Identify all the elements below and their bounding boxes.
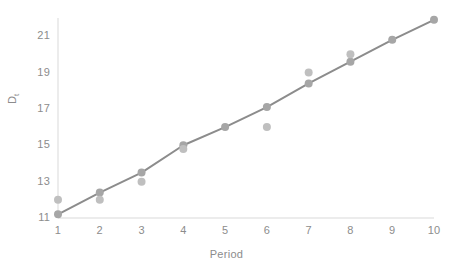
trend-marker bbox=[263, 103, 271, 111]
y-tick-label: 11 bbox=[24, 211, 50, 223]
x-tick-label: 9 bbox=[380, 224, 404, 236]
trend-marker bbox=[346, 58, 354, 66]
y-axis-title-subscript: t bbox=[12, 94, 21, 96]
trend-marker bbox=[388, 36, 396, 44]
y-tick-label: 21 bbox=[24, 29, 50, 41]
x-axis-title: Period bbox=[0, 248, 453, 260]
data-point bbox=[305, 69, 313, 77]
chart-container: 111315171921 12345678910 Period Dt bbox=[0, 0, 453, 276]
trend-line bbox=[58, 20, 434, 215]
x-tick-label: 6 bbox=[255, 224, 279, 236]
trend-marker bbox=[138, 169, 146, 177]
data-point bbox=[138, 178, 146, 186]
trend-marker bbox=[54, 210, 62, 218]
trend-marker bbox=[96, 189, 104, 197]
data-point bbox=[346, 50, 354, 58]
x-tick-label: 10 bbox=[422, 224, 446, 236]
trend-marker bbox=[430, 16, 438, 24]
y-tick-label: 17 bbox=[24, 102, 50, 114]
x-tick-label: 1 bbox=[46, 224, 70, 236]
trend-marker bbox=[221, 123, 229, 131]
x-tick-label: 4 bbox=[171, 224, 195, 236]
trend-line-path bbox=[58, 20, 434, 215]
y-tick-label: 15 bbox=[24, 138, 50, 150]
y-tick-label: 19 bbox=[24, 66, 50, 78]
x-tick-label: 7 bbox=[297, 224, 321, 236]
y-axis-title: Dt bbox=[6, 94, 21, 104]
data-point bbox=[263, 123, 271, 131]
x-tick-label: 3 bbox=[130, 224, 154, 236]
x-tick-label: 5 bbox=[213, 224, 237, 236]
trend-marker bbox=[305, 79, 313, 87]
y-tick-label: 13 bbox=[24, 175, 50, 187]
data-point bbox=[96, 196, 104, 204]
data-point bbox=[54, 196, 62, 204]
data-point bbox=[179, 145, 187, 153]
y-axis-title-base: D bbox=[6, 96, 18, 104]
x-tick-label: 2 bbox=[88, 224, 112, 236]
scatter-data-points bbox=[54, 50, 354, 203]
x-tick-label: 8 bbox=[338, 224, 362, 236]
